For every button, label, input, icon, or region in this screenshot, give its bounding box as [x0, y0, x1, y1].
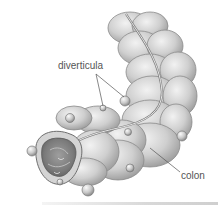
bottom-gradient-bar: [42, 202, 218, 205]
diverticulum: [66, 114, 75, 123]
label-colon: colon: [181, 171, 205, 181]
diverticulum: [126, 164, 134, 172]
diverticulum: [120, 96, 130, 106]
diverticulum: [57, 179, 63, 185]
diverticulum: [177, 131, 187, 141]
diverticulum: [125, 129, 132, 136]
label-diverticula: diverticula: [58, 61, 103, 71]
diverticulum: [27, 146, 37, 156]
colon-diagram: diverticula colon: [0, 0, 224, 212]
diverticulum: [82, 184, 94, 196]
